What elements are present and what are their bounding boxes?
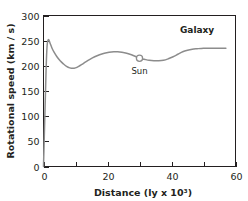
- y-axis-title: Rotational speed (km / s): [5, 24, 16, 159]
- sun-label: Sun: [131, 66, 147, 76]
- y-tick-label: 100: [21, 111, 39, 122]
- y-tick-label: 50: [27, 136, 39, 147]
- x-axis-tick-labels: 0204060: [41, 171, 242, 182]
- plot-frame: [44, 16, 236, 167]
- rotation-curve-figure: 050100150200250300 0204060 Sun Galaxy Di…: [0, 0, 248, 201]
- x-axis-ticks: [45, 162, 237, 167]
- x-tick-label: 0: [41, 171, 47, 182]
- y-tick-label: 200: [21, 61, 39, 72]
- x-axis-title: Distance (ly x 10³): [94, 187, 192, 198]
- x-tick-label: 60: [230, 171, 242, 182]
- sun-marker-icon: [136, 55, 142, 61]
- y-tick-label: 150: [21, 86, 39, 97]
- rotation-curve-line: [44, 40, 226, 167]
- chart-canvas: 050100150200250300 0204060 Sun Galaxy Di…: [0, 0, 248, 201]
- galaxy-label: Galaxy: [180, 25, 214, 35]
- x-tick-label: 40: [166, 171, 178, 182]
- y-axis-tick-labels: 050100150200250300: [21, 11, 39, 173]
- x-tick-label: 20: [102, 171, 114, 182]
- y-tick-label: 300: [21, 11, 39, 22]
- y-tick-label: 250: [21, 36, 39, 47]
- y-tick-label: 0: [33, 162, 39, 173]
